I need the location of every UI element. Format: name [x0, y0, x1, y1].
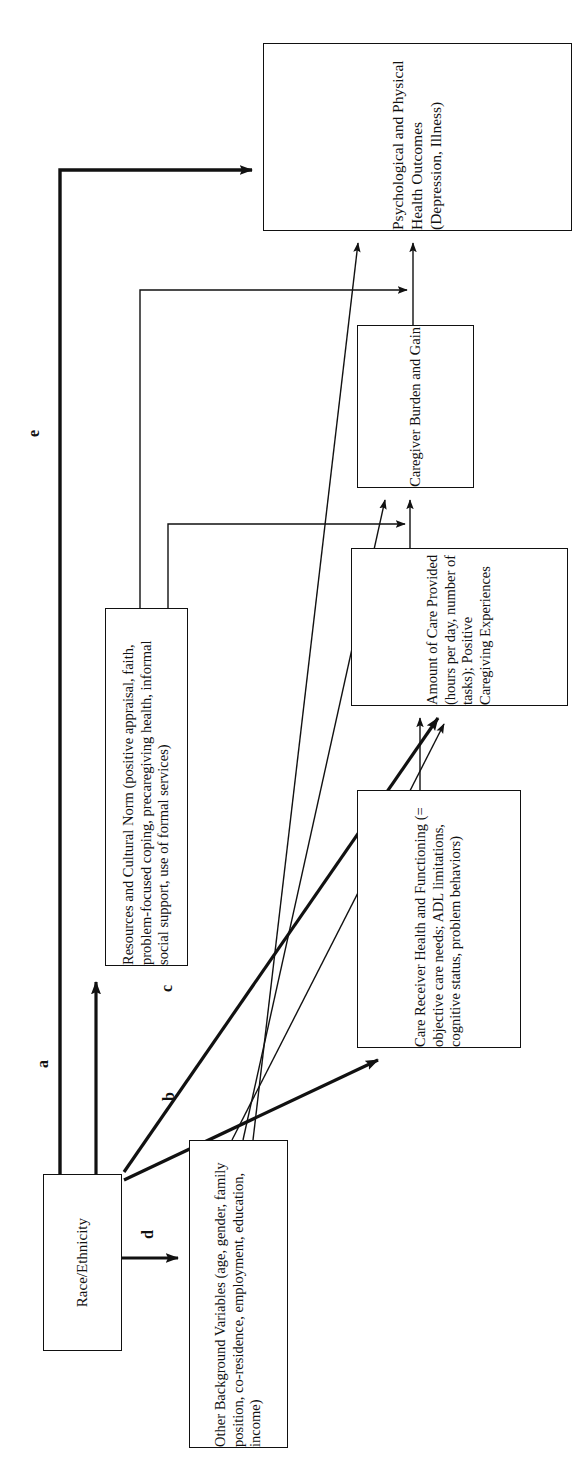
node-label: Care Receiver Health and Functioning (= …: [412, 791, 465, 1047]
node-other-background-variables[interactable]: Other Background Variables (age, gender,…: [189, 1140, 288, 1448]
node-race-ethnicity[interactable]: Race/Ethnicity: [43, 1174, 122, 1351]
node-amount-of-care-provided[interactable]: Amount of Care Provided (hours per day, …: [351, 548, 568, 706]
node-label: Amount of Care Provided (hours per day, …: [424, 549, 495, 705]
node-psychological-physical-health-outcomes[interactable]: Psychological and Physical Health Outcom…: [263, 43, 572, 231]
diagram-canvas: Psychological and Physical Health Outcom…: [0, 0, 583, 1479]
edge-label-a: a: [34, 1060, 52, 1068]
edge-label-d: d: [139, 1230, 157, 1239]
edge-label-c: c: [158, 985, 176, 992]
node-resources-and-cultural-norm[interactable]: Resources and Cultural Norm (positive ap…: [105, 608, 188, 966]
node-label: Resources and Cultural Norm (positive ap…: [120, 609, 173, 965]
node-label: Psychological and Physical Health Outcom…: [389, 44, 446, 230]
node-caregiver-burden-and-gain[interactable]: Caregiver Burden and Gain: [357, 325, 474, 488]
edge-label-e: e: [25, 430, 43, 437]
node-label: Other Background Variables (age, gender,…: [212, 1141, 265, 1447]
node-care-receiver-health-and-functioning[interactable]: Care Receiver Health and Functioning (= …: [357, 790, 521, 1048]
node-label: Caregiver Burden and Gain: [407, 327, 425, 487]
node-label: Race/Ethnicity: [73, 1218, 91, 1307]
edge-label-b: b: [160, 1092, 178, 1101]
